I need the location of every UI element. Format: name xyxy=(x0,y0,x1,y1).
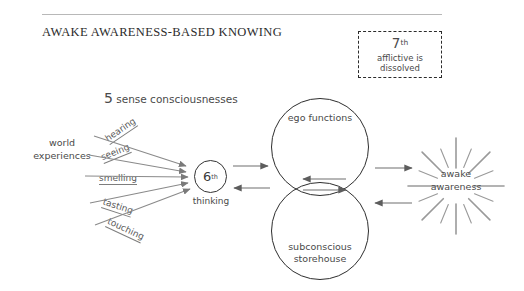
page-title: AWAKE AWARENESS-BASED KNOWING xyxy=(42,25,282,40)
sense-label-seeing: seeing xyxy=(100,142,132,164)
starburst-ray xyxy=(464,205,472,224)
sixth-consciousness-circle: 6th xyxy=(194,160,227,193)
thinking-label: thinking xyxy=(183,196,239,206)
afflictive-dissolved-box: 7th afflictive is dissolved xyxy=(358,31,442,78)
sixth-number: 6 xyxy=(203,169,211,184)
subconscious-line-2: storehouse xyxy=(271,253,369,265)
ego-functions-label: ego functions xyxy=(271,112,369,123)
five-sense-text: sense consciousnesses xyxy=(113,93,238,105)
five-sense-heading: 5 sense consciousnesses xyxy=(104,88,238,107)
sense-label-touching: touching xyxy=(105,216,146,243)
sense-label-smelling: smelling xyxy=(99,173,137,185)
subconscious-storehouse-label: subconscious storehouse xyxy=(271,241,369,266)
afflictive-line-2: dissolved xyxy=(380,63,420,73)
sense-label-hearing: hearing xyxy=(103,116,138,145)
starburst-ray xyxy=(419,194,438,202)
world-line-1: world xyxy=(26,137,98,150)
five-sense-number: 5 xyxy=(104,90,113,106)
diagram-canvas: AWAKE AWARENESS-BASED KNOWING 7th afflic… xyxy=(0,0,524,291)
awake-line-1: awake xyxy=(416,168,496,181)
afflictive-number-group: 7th xyxy=(392,36,408,52)
starburst-ray xyxy=(441,205,449,224)
afflictive-ordinal-suffix: th xyxy=(400,38,408,47)
world-line-2: experiences xyxy=(26,150,98,163)
sense-label-tasting: tasting xyxy=(101,197,134,218)
sixth-ordinal-suffix: th xyxy=(211,173,218,181)
starburst-ray xyxy=(469,199,490,220)
subconscious-line-1: subconscious xyxy=(271,241,369,253)
starburst-ray xyxy=(422,199,443,220)
starburst-ray xyxy=(464,149,472,168)
starburst-ray xyxy=(441,149,449,168)
awake-awareness-label: awake awareness xyxy=(416,168,496,194)
header-divider xyxy=(42,14,442,15)
awake-line-2: awareness xyxy=(416,181,496,194)
starburst-ray xyxy=(475,194,494,202)
afflictive-line-1: afflictive is xyxy=(377,53,423,63)
world-experiences-label: world experiences xyxy=(26,137,98,163)
